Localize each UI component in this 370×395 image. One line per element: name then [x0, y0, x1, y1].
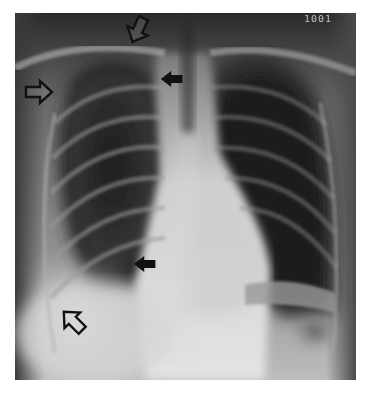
solid-arrow-lower-icon [133, 256, 157, 272]
solid-arrow-upper-icon [160, 71, 184, 87]
film-marker-text: 1001 [304, 14, 332, 24]
open-arrow-upper-left-icon [24, 80, 54, 104]
